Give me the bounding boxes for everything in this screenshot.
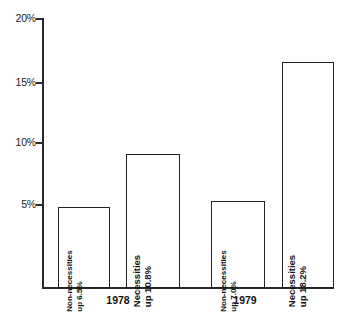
- bar-label-1979-necessities: Necessities up 18.2%: [286, 255, 308, 307]
- bar-label-1978-non-necessities: Non-necessities up 6.5%: [65, 250, 84, 311]
- faded-header-text: [60, 0, 280, 8]
- bar-1978-non-necessities: Non-necessities up 6.5%: [58, 207, 110, 288]
- bar-1979-non-necessities: Non-necessities up 7.0%: [211, 201, 265, 288]
- x-axis-group-label-1978: 1978: [88, 294, 148, 306]
- x-axis-group-label-1979: 1979: [215, 294, 275, 306]
- y-axis-tick-label-20: 20%: [2, 12, 36, 24]
- y-axis-labels: 20% 15% 10% 5%: [0, 0, 36, 311]
- y-axis-tick-label-15: 15%: [2, 76, 36, 88]
- bar-1978-necessities: Necessities up 10.8%: [126, 154, 180, 288]
- y-axis-tick-label-10: 10%: [2, 136, 36, 148]
- y-axis-tick-label-5: 5%: [2, 198, 36, 210]
- y-axis-line: [42, 18, 44, 288]
- bar-1979-necessities: Necessities up 18.2%: [282, 62, 334, 288]
